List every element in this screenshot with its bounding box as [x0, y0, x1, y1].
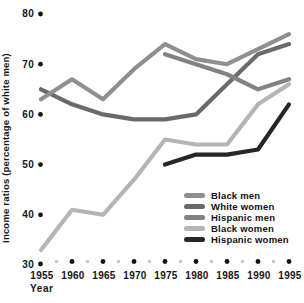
series-line-black-men — [41, 34, 289, 99]
y-tick-dot-70 — [38, 62, 43, 67]
x-tick-label-1955: 1955 — [30, 270, 54, 281]
legend-item: Hispanic men — [184, 212, 289, 223]
y-tick-label-30: 30 — [22, 259, 34, 270]
x-minor-tick-dot — [272, 260, 275, 263]
chart-plot-area: Income ratios (percentage of white men) … — [0, 0, 304, 303]
y-tick-label-40: 40 — [22, 209, 34, 220]
x-tick-label-1985: 1985 — [216, 270, 240, 281]
x-minor-tick-dot — [241, 260, 244, 263]
y-tick-label-70: 70 — [22, 59, 34, 70]
legend-swatch-black-men — [184, 193, 205, 199]
x-minor-tick-dot — [55, 260, 58, 263]
legend-swatch-black-women — [184, 226, 205, 232]
legend-label-hispanic-women: Hispanic women — [211, 234, 289, 245]
y-tick-label-60: 60 — [22, 109, 34, 120]
x-minor-tick-dot — [148, 260, 151, 263]
legend-swatch-hispanic-men — [184, 215, 205, 221]
x-tick-label-1965: 1965 — [92, 270, 116, 281]
y-tick-dot-30 — [38, 262, 43, 267]
x-minor-tick-dot — [210, 260, 213, 263]
x-tick-dot-1985 — [225, 259, 230, 264]
x-minor-tick-dot — [117, 260, 120, 263]
legend-label-black-men: Black men — [211, 190, 260, 201]
x-tick-dot-1960 — [70, 259, 75, 264]
x-tick-label-1960: 1960 — [61, 270, 85, 281]
x-tick-dot-1970 — [132, 259, 137, 264]
x-tick-label-1980: 1980 — [185, 270, 209, 281]
legend-item: Black women — [184, 223, 289, 234]
y-tick-dot-60 — [38, 112, 43, 117]
series-line-hispanic-women — [165, 104, 289, 164]
legend-item: Black men — [184, 190, 289, 201]
legend-swatch-hispanic-women — [184, 237, 205, 243]
income-ratios-figure: Income ratios (percentage of white men) … — [0, 0, 304, 303]
x-tick-dot-1980 — [194, 259, 199, 264]
x-minor-tick-dot — [179, 260, 182, 263]
legend-item: Hispanic women — [184, 234, 289, 245]
y-tick-label-80: 80 — [22, 8, 34, 19]
legend: Black men White women Hispanic men Black… — [184, 190, 289, 245]
legend-label-hispanic-men: Hispanic men — [211, 212, 275, 223]
legend-label-black-women: Black women — [211, 223, 274, 234]
x-tick-dot-1965 — [101, 259, 106, 264]
x-axis-title: Year — [30, 283, 54, 294]
x-tick-dot-1990 — [256, 259, 261, 264]
x-minor-tick-dot — [86, 260, 89, 263]
legend-swatch-white-women — [184, 204, 205, 210]
y-tick-dot-50 — [38, 162, 43, 167]
y-tick-label-50: 50 — [22, 159, 34, 170]
y-axis-title: Income ratios (percentage of white men) — [0, 53, 11, 243]
x-tick-dot-1995 — [287, 259, 292, 264]
x-tick-label-1970: 1970 — [123, 270, 147, 281]
legend-label-white-women: White women — [211, 201, 274, 212]
y-tick-dot-40 — [38, 212, 43, 217]
legend-item: White women — [184, 201, 289, 212]
x-tick-dot-1975 — [163, 259, 168, 264]
x-tick-label-1975: 1975 — [154, 270, 178, 281]
x-tick-label-1995: 1995 — [278, 270, 302, 281]
y-tick-dot-80 — [38, 12, 43, 17]
x-tick-label-1990: 1990 — [247, 270, 271, 281]
